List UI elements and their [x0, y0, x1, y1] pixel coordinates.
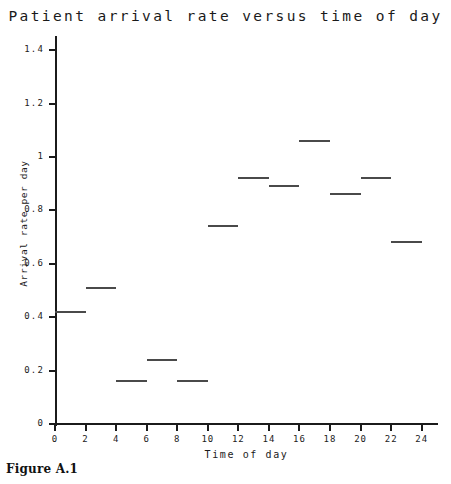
data-segment [177, 380, 208, 382]
x-axis-title: Time of day [55, 449, 438, 460]
data-segment [208, 225, 239, 227]
data-segment [116, 380, 147, 382]
data-segment [361, 177, 392, 179]
data-series-steps [0, 0, 451, 451]
plot-area: 00.20.40.60.811.21.4 0246810121416182022… [0, 0, 451, 451]
data-segment [330, 193, 361, 195]
data-segment [147, 359, 178, 361]
data-segment [238, 177, 269, 179]
data-segment [269, 185, 300, 187]
figure-container: Patient arrival rate versus time of day … [0, 0, 451, 484]
data-segment [55, 311, 86, 313]
data-segment [86, 287, 117, 289]
figure-caption: Figure A.1 [6, 462, 78, 476]
data-segment [391, 241, 422, 243]
y-axis-title: Arrival rate per day [18, 139, 29, 309]
data-segment [299, 140, 330, 142]
